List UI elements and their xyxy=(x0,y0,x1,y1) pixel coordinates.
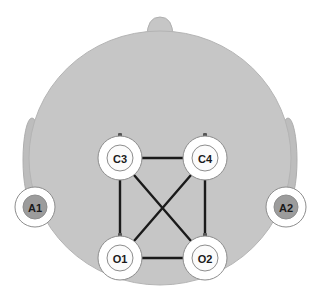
electrode-inner-disc xyxy=(107,145,133,171)
reference-inner-disc xyxy=(274,195,298,219)
eeg-diagram-canvas: C3C4O1O2 A1A2 xyxy=(0,0,320,303)
reference-electrode-a1[interactable]: A1 xyxy=(15,187,55,227)
electrode-inner-disc xyxy=(192,145,218,171)
electrode-inner-disc xyxy=(107,245,133,271)
electrode-inner-disc xyxy=(192,245,218,271)
reference-electrode-a2[interactable]: A2 xyxy=(266,187,306,227)
reference-inner-disc xyxy=(23,195,47,219)
eeg-head-diagram: C3C4O1O2 A1A2 xyxy=(0,0,320,303)
